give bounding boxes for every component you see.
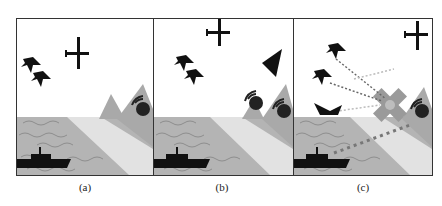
panel-b bbox=[154, 19, 293, 175]
surveillance-plane-icon bbox=[206, 19, 230, 46]
fighter-jet-icon bbox=[326, 43, 346, 59]
panel-label-b: (b) bbox=[216, 181, 229, 193]
boat-icon bbox=[314, 103, 342, 115]
stealth-aircraft-icon bbox=[262, 49, 282, 77]
panel-c bbox=[294, 19, 432, 175]
fighter-jet-icon bbox=[184, 69, 204, 85]
surveillance-plane-icon bbox=[404, 21, 428, 50]
panel-label-c: (c) bbox=[357, 181, 369, 193]
surveillance-plane-icon bbox=[65, 37, 89, 69]
panel-a bbox=[17, 19, 153, 175]
figure-frame bbox=[16, 18, 433, 176]
panel-label-a: (a) bbox=[79, 181, 91, 193]
fighter-jet-icon bbox=[174, 55, 194, 71]
radar-icon bbox=[245, 91, 263, 110]
fighter-jet-icon bbox=[31, 71, 51, 87]
fighter-jet-icon bbox=[312, 69, 332, 85]
fighter-jet-icon bbox=[21, 57, 41, 73]
